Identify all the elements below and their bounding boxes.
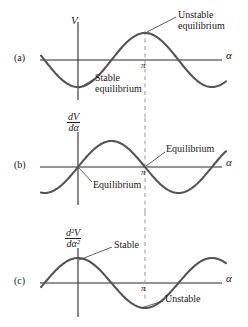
figure-container: (a) V α π Unstable equilibrium Stable eq… (0, 0, 248, 327)
panel-key-a: (a) (14, 53, 25, 64)
panel-b-fraction: dV dα (67, 112, 80, 133)
panel-c-y-axis-label: d²V dα² (65, 228, 81, 250)
panel-b-equilibrium-lower-leader (79, 168, 92, 182)
panel-c-stable-label: Stable (114, 240, 139, 251)
panel-a-y-axis-label: V (71, 15, 78, 27)
panel-a-x-axis-label: α (226, 50, 232, 62)
panel-c-fraction-denominator: dα² (65, 238, 81, 249)
panel-a-unstable-equilibrium-label: Unstable equilibrium (178, 10, 225, 32)
panel-b-y-axis-label: dV dα (67, 112, 80, 134)
panel-a-group (40, 17, 226, 118)
panel-a-stable-equilibrium-label: Stable equilibrium (95, 73, 142, 95)
panel-b-fraction-denominator: dα (67, 122, 80, 133)
panel-c-x-axis-label: α (226, 273, 232, 285)
panel-b-equilibrium-lower-label: Equilibrium (93, 180, 141, 191)
panel-key-c: (c) (14, 276, 25, 287)
panel-a-pi-tick-label: π (141, 61, 146, 71)
panel-a-stable-leader (79, 79, 94, 88)
panel-key-b: (b) (14, 160, 26, 171)
panel-a-unstable-leader (147, 17, 176, 32)
panel-a-stable-line1: Stable (95, 72, 120, 83)
panel-c-fraction: d²V dα² (65, 228, 81, 249)
panel-c-fraction-numerator: d²V (65, 228, 81, 238)
panel-b-equilibrium-upper-label: Equilibrium (166, 144, 214, 155)
panel-b-fraction-numerator: dV (67, 112, 80, 122)
panel-c-stable-leader (79, 247, 112, 260)
panel-c-unstable-label: Unstable (165, 294, 201, 305)
panel-b-equilibrium-upper-leader (146, 152, 165, 166)
figure-svg (0, 0, 248, 327)
panel-c-pi-tick-label: π (141, 284, 146, 294)
panel-a-unstable-line1: Unstable (178, 9, 214, 20)
panel-a-unstable-line2: equilibrium (178, 20, 225, 31)
panel-b-x-axis-label: α (226, 157, 232, 169)
panel-b-pi-tick-label: π (141, 168, 146, 178)
panel-a-stable-line2: equilibrium (95, 83, 142, 94)
